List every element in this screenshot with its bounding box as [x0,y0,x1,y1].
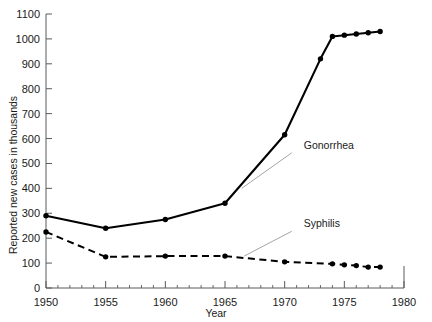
x-tick-label: 1975 [332,296,356,308]
plot-frame [46,14,404,288]
data-point-syphilis [103,254,108,259]
y-tick-label: 0 [34,282,40,294]
y-tick-label: 100 [22,257,40,269]
data-point-syphilis [163,253,168,258]
data-point-gonorrhea [163,217,168,222]
x-axis-ticks [46,281,404,288]
y-tick-label: 600 [22,133,40,145]
x-axis-title: Year [205,307,227,319]
x-tick-label: 1955 [93,296,117,308]
y-tick-label: 700 [22,108,40,120]
data-point-gonorrhea [103,226,108,231]
y-axis-tick-labels: 010020030040050060070080090010001100 [16,8,40,294]
series-leader-lines [242,153,292,256]
x-tick-label: 1970 [272,296,296,308]
data-point-syphilis [282,259,287,264]
data-point-syphilis [43,229,48,234]
y-axis-title: Reported new cases in thousands [7,96,19,254]
series-label-gonorrhea: Gonorrhea [304,139,354,151]
series-line-syphilis [46,232,380,267]
data-point-syphilis [342,262,347,267]
x-tick-label: 1980 [392,296,416,308]
data-point-syphilis [366,264,371,269]
series-annotations: GonorrheaSyphilis [304,139,354,229]
data-point-gonorrhea [318,56,323,61]
data-point-gonorrhea [43,213,48,218]
y-tick-label: 1000 [16,33,40,45]
line-chart-svg: 010020030040050060070080090010001100 195… [0,0,432,322]
y-tick-label: 200 [22,232,40,244]
y-tick-label: 900 [22,58,40,70]
data-point-gonorrhea [282,132,287,137]
x-tick-label: 1950 [34,296,58,308]
chart-container: 010020030040050060070080090010001100 195… [0,0,432,322]
data-point-syphilis [222,253,227,258]
series-line-gonorrhea [46,31,380,228]
y-tick-label: 300 [22,207,40,219]
data-point-gonorrhea [366,30,371,35]
y-tick-label: 800 [22,83,40,95]
x-tick-label: 1960 [153,296,177,308]
data-point-gonorrhea [377,29,382,34]
series-label-syphilis: Syphilis [304,217,340,229]
y-tick-label: 1100 [16,8,40,20]
data-point-gonorrhea [354,31,359,36]
data-point-syphilis [377,264,382,269]
y-axis-ticks [46,14,52,288]
data-point-gonorrhea [330,34,335,39]
data-point-gonorrhea [342,32,347,37]
y-tick-label: 400 [22,182,40,194]
data-point-syphilis [330,261,335,266]
data-point-syphilis [354,263,359,268]
data-point-gonorrhea [222,201,227,206]
y-tick-label: 500 [22,157,40,169]
